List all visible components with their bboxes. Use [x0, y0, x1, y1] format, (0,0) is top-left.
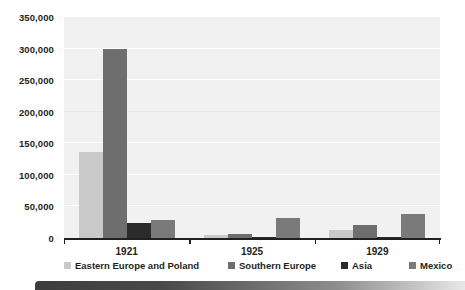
chart-legend: Eastern Europe and PolandSouthern Europe… — [0, 261, 465, 276]
y-axis-tick-label: 150,000 — [19, 138, 54, 149]
legend-label: Asia — [352, 261, 372, 271]
x-axis-line — [64, 238, 441, 240]
y-axis-tick-label: 100,000 — [19, 169, 54, 180]
caption-band — [35, 281, 465, 290]
x-axis-category-label: 1929 — [366, 246, 388, 257]
legend-item[interactable]: Asia — [341, 261, 372, 271]
bar — [401, 214, 425, 238]
x-axis-tick — [189, 238, 190, 244]
legend-label: Mexico — [420, 261, 452, 271]
y-axis-tick-label: 200,000 — [19, 106, 54, 117]
legend-item[interactable]: Mexico — [409, 261, 452, 271]
x-axis-category-label: 1925 — [241, 246, 263, 257]
legend-item[interactable]: Southern Europe — [228, 261, 316, 271]
x-axis-tick — [64, 238, 65, 244]
legend-swatch-icon — [341, 262, 348, 269]
x-axis-tick — [439, 238, 440, 244]
bar — [127, 223, 151, 238]
bar-chart: 050,000100,000150,000200,000250,000300,0… — [0, 0, 465, 290]
legend-item[interactable]: Eastern Europe and Poland — [64, 261, 199, 271]
legend-swatch-icon — [409, 262, 416, 269]
legend-swatch-icon — [64, 262, 71, 269]
bar — [103, 49, 127, 238]
y-axis-tick-label: 50,000 — [24, 201, 54, 212]
bar — [151, 220, 175, 238]
y-axis: 050,000100,000150,000200,000250,000300,0… — [0, 0, 64, 255]
legend-label: Southern Europe — [239, 261, 316, 271]
legend-swatch-icon — [228, 262, 235, 269]
bar — [329, 230, 353, 238]
bar — [353, 225, 377, 238]
y-axis-tick-label: 0 — [49, 233, 54, 244]
x-axis-tick — [315, 238, 316, 244]
bars-layer — [64, 17, 440, 238]
y-axis-tick-label: 300,000 — [19, 43, 54, 54]
y-axis-tick-label: 350,000 — [19, 12, 54, 23]
legend-label: Eastern Europe and Poland — [75, 261, 199, 271]
y-axis-tick-label: 250,000 — [19, 75, 54, 86]
bar — [79, 152, 103, 239]
x-axis-category-label: 1921 — [116, 246, 138, 257]
bar — [276, 218, 300, 238]
